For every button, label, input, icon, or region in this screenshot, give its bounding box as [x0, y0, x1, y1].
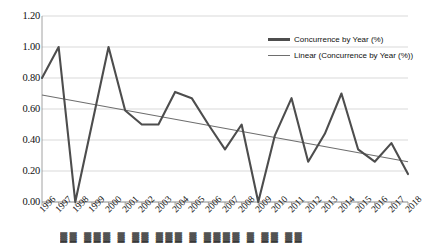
legend-label-trendline: Linear (Concurrence by Year (%))	[294, 51, 413, 60]
x-axis-tick-label: 2006	[204, 195, 224, 215]
legend-item-series: Concurrence by Year (%)	[268, 33, 416, 46]
x-axis-tick-label: 2018	[404, 195, 423, 215]
chart-legend: Concurrence by Year (%) Linear (Concurre…	[268, 33, 416, 65]
legend-swatch-trendline-icon	[268, 55, 290, 56]
legend-label-series: Concurrence by Year (%)	[294, 35, 383, 44]
x-axis-tick-label: 2017	[387, 195, 407, 215]
figure-caption-clipped: ▓▓ ▓▓▓ ▓ ▓▓ ▓▓▓ ▓ ▓▓▓▓ ▓ ▓▓ ▓▓	[60, 232, 380, 243]
legend-swatch-series-icon	[268, 38, 290, 41]
legend-item-trendline: Linear (Concurrence by Year (%))	[268, 49, 416, 62]
figure-caption-text: ▓▓ ▓▓▓ ▓ ▓▓ ▓▓▓ ▓ ▓▓▓▓ ▓ ▓▓ ▓▓	[60, 232, 380, 242]
